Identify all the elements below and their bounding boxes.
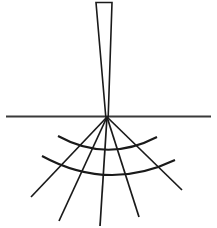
wave-propagation-diagram xyxy=(0,0,217,228)
figure-root xyxy=(0,0,217,228)
